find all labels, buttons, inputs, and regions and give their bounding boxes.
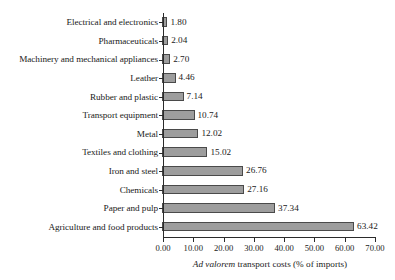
bar-track: 15.02	[162, 143, 395, 162]
category-label: Agriculture and food products	[0, 222, 162, 232]
category-label: Chemicals	[0, 185, 162, 195]
bar-value-label: 27.16	[247, 184, 268, 195]
bar-track: 26.76	[162, 162, 395, 181]
bar-rows: Electrical and electronics1.80Pharmaceut…	[0, 13, 395, 236]
bar-row: Agriculture and food products63.42	[0, 218, 395, 237]
bar-row: Chemicals27.16	[0, 180, 395, 199]
category-label: Machinery and mechanical appliances	[0, 54, 162, 64]
y-axis-tick	[159, 171, 163, 172]
bar-row: Pharmaceuticals2.04	[0, 32, 395, 51]
bar-track: 1.80	[162, 13, 395, 32]
x-axis-tick-label: 50.00	[305, 243, 324, 253]
bar-value-label: 7.14	[187, 91, 203, 102]
x-axis-tick-label: 0.00	[155, 243, 170, 253]
bar-value-label: 10.74	[198, 110, 219, 121]
y-axis-tick	[159, 115, 163, 116]
bar-value-label: 2.70	[173, 54, 189, 65]
x-axis-tick-label: 10.00	[184, 243, 203, 253]
x-axis-tick	[193, 238, 194, 242]
category-label: Leather	[0, 73, 162, 83]
bar-chart: Electrical and electronics1.80Pharmaceut…	[0, 0, 395, 280]
bar-row: Rubber and plastic7.14	[0, 87, 395, 106]
y-axis-tick	[159, 190, 163, 191]
x-axis-tick-label: 30.00	[244, 243, 263, 253]
bar-row: Textiles and clothing15.02	[0, 143, 395, 162]
bar-value-label: 1.80	[170, 17, 186, 28]
bar-track: 63.42	[162, 218, 395, 237]
bar-track: 10.74	[162, 106, 395, 125]
bar-row: Leather4.46	[0, 69, 395, 88]
bar-track: 2.70	[162, 50, 395, 69]
x-axis-tick-label: 40.00	[274, 243, 293, 253]
bar	[162, 203, 275, 213]
bar-row: Metal12.02	[0, 125, 395, 144]
y-axis-tick	[159, 22, 163, 23]
bar	[162, 147, 207, 157]
bar-row: Paper and pulp37.34	[0, 199, 395, 218]
y-axis-tick	[159, 97, 163, 98]
x-axis-tick	[284, 238, 285, 242]
y-axis-line	[163, 13, 164, 237]
x-axis-title-rest: transport costs (% of imports)	[235, 259, 347, 269]
x-axis-tick	[345, 238, 346, 242]
bar-value-label: 37.34	[278, 203, 299, 214]
category-label: Pharmaceuticals	[0, 36, 162, 46]
bar-value-label: 2.04	[171, 35, 187, 46]
y-axis-tick	[159, 134, 163, 135]
y-axis-tick	[159, 41, 163, 42]
bar	[162, 166, 243, 176]
bar-track: 27.16	[162, 180, 395, 199]
bar	[162, 92, 184, 102]
x-axis-title: Ad valorem transport costs (% of imports…	[164, 259, 376, 270]
x-axis-tick-label: 70.00	[365, 243, 384, 253]
bar	[162, 110, 195, 120]
y-axis-tick	[159, 153, 163, 154]
bar	[162, 185, 244, 195]
bar	[162, 73, 176, 83]
x-axis-tick	[254, 238, 255, 242]
category-label: Rubber and plastic	[0, 92, 162, 102]
category-label: Electrical and electronics	[0, 17, 162, 27]
bar-value-label: 26.76	[246, 165, 267, 176]
category-label: Paper and pulp	[0, 203, 162, 213]
bar-track: 12.02	[162, 125, 395, 144]
x-axis-tick	[224, 238, 225, 242]
x-axis-tick-label: 20.00	[214, 243, 233, 253]
x-axis-tick	[375, 238, 376, 242]
bar-track: 2.04	[162, 32, 395, 51]
bar-track: 37.34	[162, 199, 395, 218]
y-axis-tick	[159, 227, 163, 228]
x-axis-tick	[163, 238, 164, 242]
bar-value-label: 63.42	[357, 221, 378, 232]
bar-row: Iron and steel26.76	[0, 162, 395, 181]
x-axis-tick-label: 60.00	[335, 243, 354, 253]
bar	[162, 222, 354, 232]
category-label: Iron and steel	[0, 166, 162, 176]
bar-value-label: 12.02	[201, 128, 222, 139]
bar-row: Machinery and mechanical appliances2.70	[0, 50, 395, 69]
bar-track: 7.14	[162, 87, 395, 106]
y-axis-tick	[159, 208, 163, 209]
bar-track: 4.46	[162, 69, 395, 88]
category-label: Metal	[0, 129, 162, 139]
y-axis-tick	[159, 60, 163, 61]
bar-row: Transport equipment10.74	[0, 106, 395, 125]
bar-value-label: 15.02	[210, 147, 231, 158]
bar-value-label: 4.46	[179, 72, 195, 83]
bar-row: Electrical and electronics1.80	[0, 13, 395, 32]
bar	[162, 129, 198, 139]
category-label: Textiles and clothing	[0, 147, 162, 157]
x-axis-tick	[314, 238, 315, 242]
y-axis-tick	[159, 78, 163, 79]
category-label: Transport equipment	[0, 110, 162, 120]
x-axis-title-italic: Ad valorem	[193, 259, 235, 269]
